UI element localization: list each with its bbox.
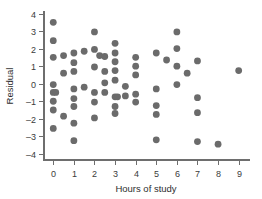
data-point: [101, 68, 108, 75]
y-axis-title: Residual: [4, 68, 15, 105]
data-point: [91, 64, 98, 71]
data-point: [112, 110, 119, 117]
data-point: [91, 89, 98, 96]
data-point: [91, 29, 98, 36]
data-point: [70, 59, 77, 66]
y-tick-label: –2: [26, 115, 36, 125]
y-tick-mark-group: [39, 15, 44, 155]
data-point: [132, 99, 139, 106]
data-point: [91, 99, 98, 106]
data-point: [163, 57, 170, 64]
data-point: [132, 72, 139, 79]
data-point: [112, 77, 119, 84]
data-point: [70, 95, 77, 102]
y-tick-label: 3: [31, 27, 36, 37]
data-point-group: [50, 19, 242, 148]
data-point: [91, 46, 98, 53]
data-point: [70, 68, 77, 75]
x-tick-label-group: 0123456789: [51, 169, 242, 179]
data-point: [70, 137, 77, 144]
x-tick-label: 6: [175, 169, 180, 179]
data-point: [60, 70, 67, 77]
data-point: [114, 93, 121, 100]
data-point: [101, 53, 108, 60]
data-point: [70, 120, 77, 127]
data-point: [132, 63, 139, 70]
data-point: [184, 70, 191, 77]
y-tick-label: 1: [31, 62, 36, 72]
y-tick-label-group: –4–3–2–101234: [26, 10, 36, 160]
data-point: [153, 50, 160, 57]
data-point: [173, 81, 180, 88]
data-point: [112, 40, 119, 47]
data-point: [50, 125, 57, 132]
data-point: [112, 50, 119, 57]
data-point: [91, 114, 98, 121]
data-point: [60, 52, 67, 59]
data-point: [235, 67, 242, 74]
data-point: [101, 89, 108, 96]
data-point: [122, 93, 129, 100]
y-tick-label: –4: [26, 150, 36, 160]
data-point: [173, 45, 180, 52]
data-point: [60, 113, 67, 120]
data-point: [50, 98, 57, 105]
data-point: [153, 111, 160, 118]
x-tick-mark-group: [54, 160, 240, 165]
x-tick-label: 2: [92, 169, 97, 179]
x-tick-label: 1: [72, 169, 77, 179]
x-axis-title: Hours of study: [115, 183, 176, 194]
data-point: [50, 81, 57, 88]
data-point: [132, 91, 139, 98]
data-point: [81, 84, 88, 91]
data-point: [70, 86, 77, 93]
y-tick-label: –3: [26, 132, 36, 142]
data-point: [132, 54, 139, 61]
scatter-plot-figure: –4–3–2–101234 0123456789 Hours of study …: [0, 0, 262, 199]
data-point: [153, 86, 160, 93]
y-tick-label: 2: [31, 45, 36, 55]
y-tick-label: –1: [26, 97, 36, 107]
data-point: [153, 136, 160, 143]
y-tick-label: 4: [31, 10, 36, 20]
x-tick-label: 0: [51, 169, 56, 179]
data-point: [112, 67, 119, 74]
data-point: [215, 141, 222, 148]
data-point: [52, 89, 59, 96]
data-point: [70, 50, 77, 57]
data-point: [70, 103, 77, 110]
x-tick-label: 5: [154, 169, 159, 179]
x-tick-label: 4: [134, 169, 139, 179]
data-point: [194, 109, 201, 116]
chart-canvas: –4–3–2–101234 0123456789 Hours of study …: [0, 0, 262, 199]
data-point: [50, 107, 57, 114]
data-point: [50, 19, 57, 26]
data-point: [50, 54, 57, 61]
data-point: [194, 138, 201, 145]
data-point: [112, 103, 119, 110]
data-point: [153, 102, 160, 109]
data-point: [50, 37, 57, 44]
data-point: [194, 94, 201, 101]
data-point: [194, 57, 201, 64]
data-point: [112, 58, 119, 65]
data-point: [173, 29, 180, 36]
x-tick-label: 3: [113, 169, 118, 179]
x-tick-label: 8: [216, 169, 221, 179]
x-tick-label: 7: [195, 169, 200, 179]
data-point: [122, 83, 129, 90]
y-tick-label: 0: [31, 80, 36, 90]
data-point: [173, 63, 180, 70]
data-point: [81, 48, 88, 55]
x-tick-label: 9: [237, 169, 242, 179]
data-point: [101, 79, 108, 86]
